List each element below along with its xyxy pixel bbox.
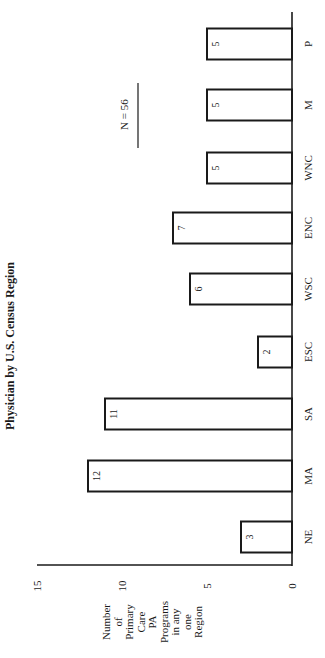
axis-label-line: Care <box>135 612 147 633</box>
tick-label: 10 <box>116 580 128 592</box>
axis-label-line: one <box>181 614 193 630</box>
bar-sa: 11 <box>105 399 292 430</box>
category-label: SA <box>302 407 314 421</box>
bar-value-label: 5 <box>210 166 221 171</box>
bar-wsc: 6 <box>190 274 292 305</box>
category-label: P <box>302 41 314 47</box>
axis-label-line: in any <box>169 608 181 636</box>
bar-enc: 7 <box>173 213 292 244</box>
tick-label: 0 <box>286 583 298 589</box>
axis-label-line: Number <box>100 604 112 640</box>
bar-value-label: 2 <box>261 350 272 355</box>
category-label: WNC <box>302 155 314 181</box>
bar-ma: 12 <box>88 461 292 492</box>
bar-value-label: 7 <box>176 226 187 231</box>
category-label: NE <box>302 529 314 544</box>
bar-value-label: 5 <box>210 103 221 108</box>
axis-label-line: PA <box>146 615 158 628</box>
bar-value-label: 12 <box>91 471 102 481</box>
value-axis-ticks: 051015 <box>31 580 298 592</box>
bar-m: 5 <box>207 90 292 121</box>
category-label: ESC <box>302 342 314 362</box>
tick-label: 15 <box>31 580 43 592</box>
bar-value-label: 5 <box>210 42 221 47</box>
tick-label: 5 <box>201 583 213 589</box>
bar-chart: Physician by U.S. Census Region N = 56 3… <box>0 0 325 658</box>
category-label: WSC <box>302 277 314 301</box>
bar-esc: 2 <box>258 337 292 368</box>
bar-ne: 3 <box>241 522 292 553</box>
axis-label-line: Programs <box>158 601 170 643</box>
value-axis-label: NumberofPrimaryCarePAProgramsin anyoneRe… <box>100 601 204 643</box>
axis-label-line: Primary <box>123 604 135 640</box>
bar-value-label: 11 <box>108 409 119 419</box>
svg-text:N = 56: N = 56 <box>118 99 130 130</box>
sample-size-annotation: N = 56 <box>118 83 138 148</box>
category-label: M <box>302 100 314 110</box>
axis-label-line: of <box>112 617 124 627</box>
bar-wnc: 5 <box>207 153 292 184</box>
category-label: ENC <box>302 217 314 239</box>
category-labels: NEMASAESCWSCENCWNCMP <box>302 41 314 544</box>
bar-value-label: 3 <box>244 535 255 540</box>
bar-value-label: 6 <box>193 287 204 292</box>
category-label: MA <box>302 467 314 485</box>
chart-title: Physician by U.S. Census Region <box>3 262 17 430</box>
bar-p: 5 <box>207 29 292 60</box>
axis-label-line: Region <box>192 606 204 638</box>
